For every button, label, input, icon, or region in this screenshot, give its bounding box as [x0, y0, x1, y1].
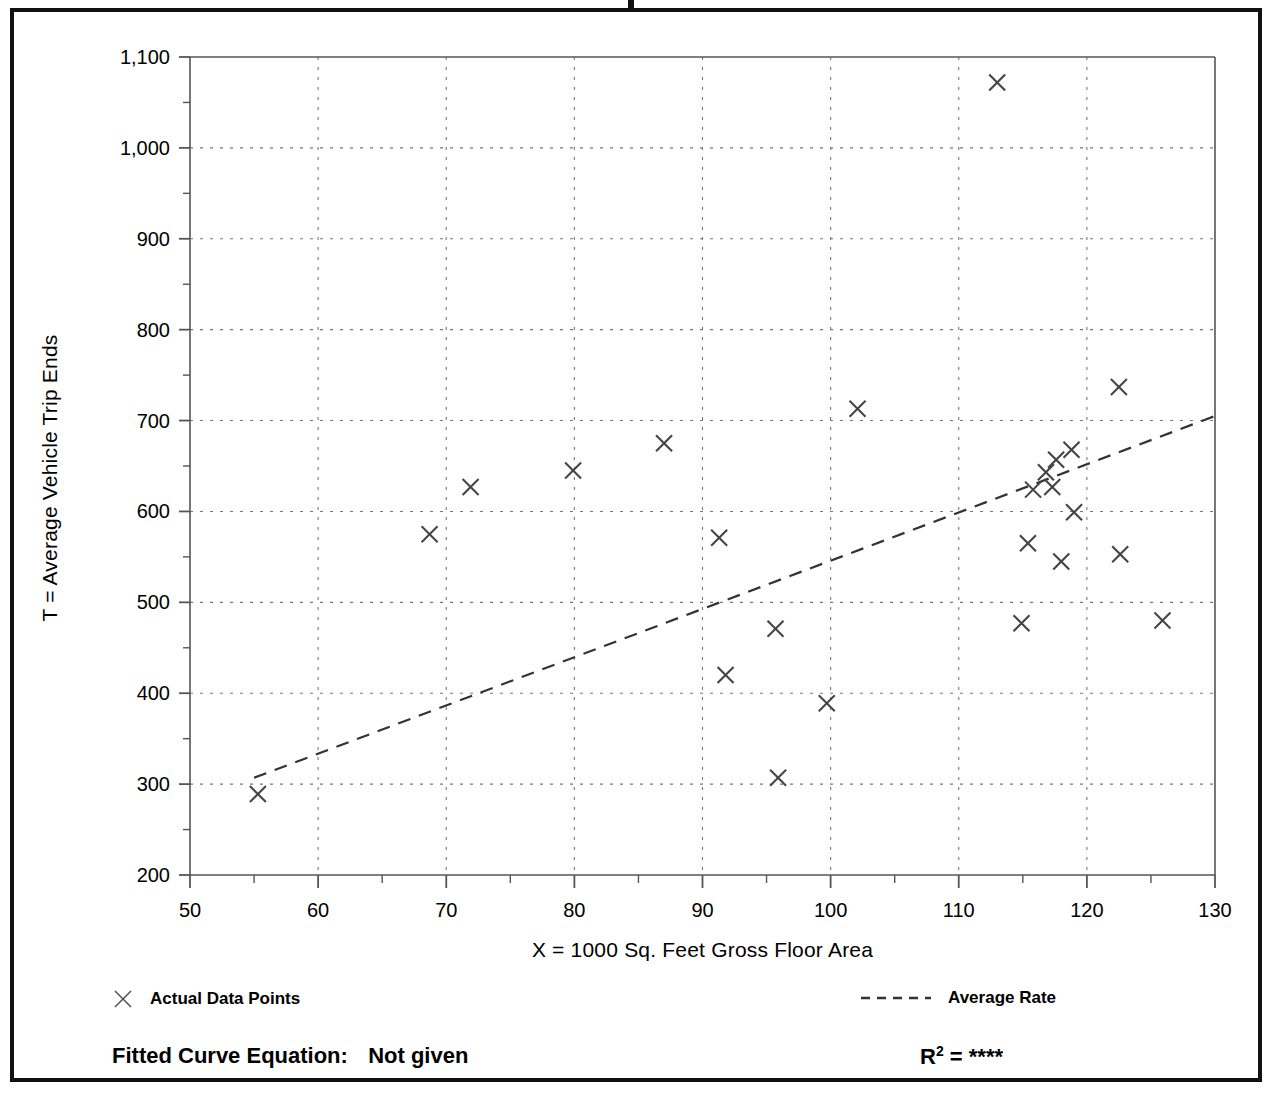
- scatter-chart-figure: 2003004005006007008009001,0001,100506070…: [0, 0, 1276, 1100]
- x-tick-label: 120: [1070, 899, 1103, 921]
- legend-label-data-points: Actual Data Points: [150, 989, 300, 1009]
- legend-label-average-rate: Average Rate: [948, 988, 1056, 1008]
- x-axis-title: X = 1000 Sq. Feet Gross Floor Area: [190, 938, 1215, 962]
- y-tick-label: 800: [137, 319, 170, 341]
- y-axis-title: T = Average Vehicle Trip Ends: [38, 238, 62, 718]
- data-point-marker: [1014, 615, 1030, 631]
- data-point-marker: [1112, 546, 1128, 562]
- x-marker-icon: [112, 988, 134, 1010]
- chart-page: 2003004005006007008009001,0001,100506070…: [0, 0, 1276, 1100]
- data-point-marker: [989, 74, 1005, 90]
- x-tick-label: 50: [179, 899, 201, 921]
- y-tick-label: 300: [137, 773, 170, 795]
- data-point-marker: [768, 621, 784, 637]
- chart-canvas: 2003004005006007008009001,0001,100506070…: [0, 0, 1276, 1100]
- average-rate-trendline: [254, 416, 1215, 778]
- y-tick-label: 600: [137, 500, 170, 522]
- data-point-marker: [1066, 504, 1082, 520]
- y-tick-label: 200: [137, 864, 170, 886]
- x-tick-label: 70: [435, 899, 457, 921]
- data-point-marker: [1111, 379, 1127, 395]
- x-tick-label: 130: [1198, 899, 1231, 921]
- data-point-marker: [422, 526, 438, 542]
- y-tick-label: 700: [137, 410, 170, 432]
- data-point-marker: [1154, 613, 1170, 629]
- x-tick-label: 110: [943, 899, 975, 921]
- data-point-marker: [1064, 442, 1080, 458]
- data-point-marker: [770, 770, 786, 786]
- x-tick-label: 90: [691, 899, 713, 921]
- data-point-marker: [1048, 452, 1064, 468]
- data-point-marker: [718, 667, 734, 683]
- average-rate-trendline-group: [254, 416, 1215, 778]
- axis-ticks-group: [179, 57, 1215, 888]
- y-tick-label: 1,100: [120, 46, 170, 68]
- dashed-line-icon: [860, 992, 932, 1004]
- data-point-marker: [250, 786, 266, 802]
- legend-item-average-rate: Average Rate: [860, 988, 1056, 1008]
- y-tick-label: 900: [137, 228, 170, 250]
- x-tick-label: 60: [307, 899, 329, 921]
- data-point-marker: [1053, 553, 1069, 569]
- data-point-marker: [711, 530, 727, 546]
- x-tick-label: 80: [563, 899, 585, 921]
- legend-item-data-points: Actual Data Points: [112, 988, 300, 1010]
- y-tick-label: 500: [137, 591, 170, 613]
- y-tick-label: 400: [137, 682, 170, 704]
- data-point-marker: [463, 479, 479, 495]
- data-point-marker: [1044, 479, 1060, 495]
- y-tick-label: 1,000: [120, 137, 170, 159]
- x-tick-label: 100: [814, 899, 847, 921]
- data-point-marker: [850, 401, 866, 417]
- data-point-marker: [656, 435, 672, 451]
- data-point-marker: [565, 463, 581, 479]
- data-point-marker: [1020, 535, 1036, 551]
- axis-tick-labels-group: 2003004005006007008009001,0001,100506070…: [120, 46, 1232, 921]
- data-point-marker: [819, 695, 835, 711]
- data-point-marker: [1025, 482, 1041, 498]
- data-point-marker: [1038, 464, 1054, 480]
